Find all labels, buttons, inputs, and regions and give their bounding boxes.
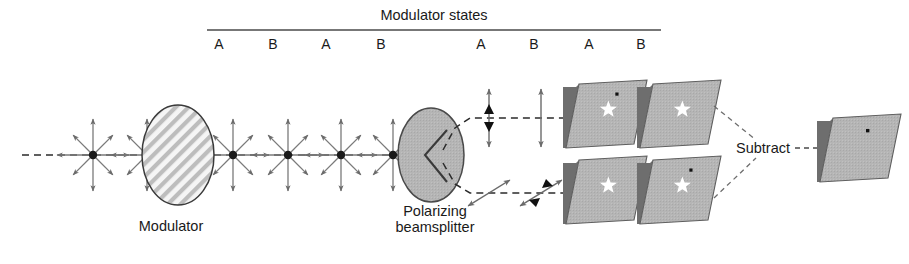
ray-origin-dot [337, 151, 345, 159]
polarization-ray-arrow [93, 135, 113, 155]
detector-dot-marker [689, 168, 692, 171]
panel-b-upper [637, 80, 721, 148]
polarization-ray-arrow [288, 135, 308, 155]
panel-result [817, 114, 901, 182]
detector-dot-marker [866, 129, 869, 132]
detector-dot-marker [615, 92, 618, 95]
modulator-element [142, 105, 214, 205]
ray-origin-dot [389, 151, 397, 159]
modulator-states-title: Modulator states [380, 7, 487, 23]
panel-a-upper [563, 80, 647, 148]
panel-b-lower [637, 156, 721, 224]
panel-a-lower [563, 156, 647, 224]
state-label-5: A [476, 37, 485, 53]
state-label-1: A [214, 37, 223, 53]
polarization-ray-arrow [288, 155, 308, 175]
polarization-ray-arrow [213, 135, 233, 155]
subtract-label: Subtract [736, 140, 790, 156]
polarization-ray-arrow [321, 155, 341, 175]
ray-origin-dot [89, 151, 97, 159]
beamsplitter-label-line2: beamsplitter [396, 219, 475, 235]
polarization-ray-arrow [233, 155, 253, 175]
result-panel-group [817, 114, 901, 182]
unpolarized-light-starbursts [57, 119, 429, 191]
state-label-6: B [529, 37, 538, 53]
subtract-line-from-lower [714, 158, 756, 198]
detector-panel-surface [820, 114, 901, 182]
polarization-ray-arrow [268, 155, 288, 175]
detector-panels-group [563, 80, 721, 224]
polarization-ray-arrow [341, 135, 361, 155]
polarization-ray-arrow [373, 135, 393, 155]
polarization-ray-arrow [321, 135, 341, 155]
polarization-ray-arrow [73, 135, 93, 155]
beamsplitter-ellipse [398, 108, 464, 202]
polarization-state-markers [468, 89, 562, 207]
state-label-3: A [321, 37, 330, 53]
modulator-ellipse [142, 105, 214, 205]
state-label-2: B [268, 37, 277, 53]
polarization-ray-arrow [373, 155, 393, 175]
polarization-ray-arrow [213, 155, 233, 175]
polarization-imaging-figure: Modulator states A B A B A B A B Modulat… [0, 0, 909, 264]
subtract-line-from-upper [714, 106, 756, 140]
polarization-ray-arrow [268, 135, 288, 155]
polarization-ray-arrow [73, 155, 93, 175]
beamsplitter-label-line1: Polarizing [403, 203, 467, 219]
polarization-ray-arrow [341, 155, 361, 175]
beamsplitter-element [398, 108, 464, 202]
state-label-7: A [584, 37, 593, 53]
beamsplitter-label: Polarizing beamsplitter [396, 203, 475, 235]
ray-origin-dot [229, 151, 237, 159]
modulator-label: Modulator [139, 218, 203, 234]
polarization-ray-arrow [93, 155, 113, 175]
ray-origin-dot [284, 151, 292, 159]
state-label-4: B [376, 37, 385, 53]
state-label-8: B [636, 37, 645, 53]
polarization-ray-arrow [233, 135, 253, 155]
